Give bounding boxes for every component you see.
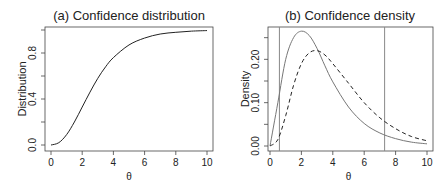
x-axis-label: θ	[346, 171, 352, 182]
y-tick-label: 0.10	[250, 92, 261, 112]
figure: (a) Confidence distribution0246810θ0.00.…	[0, 0, 447, 186]
x-tick-label: 10	[421, 157, 433, 168]
y-tick-label: 0.4	[27, 92, 38, 106]
x-tick-label: 4	[330, 157, 336, 168]
plot-frame	[45, 27, 213, 151]
y-axis-label: Density	[239, 70, 251, 107]
x-tick-label: 8	[393, 157, 399, 168]
panel-density: (b) Confidence density0246810θ0.000.100.…	[239, 8, 433, 182]
dashed-series-line	[270, 51, 427, 146]
x-tick-label: 4	[111, 157, 117, 168]
y-tick-label: 0.8	[27, 46, 38, 60]
chart-title: (a) Confidence distribution	[53, 8, 205, 23]
x-tick-label: 6	[142, 157, 148, 168]
x-tick-label: 10	[201, 157, 213, 168]
y-tick-label: 0.20	[250, 49, 261, 69]
x-tick-label: 2	[79, 157, 85, 168]
x-tick-label: 8	[173, 157, 179, 168]
plot-frame	[268, 27, 433, 151]
chart-title: (b) Confidence density	[285, 8, 416, 23]
panel-distribution: (a) Confidence distribution0246810θ0.00.…	[16, 8, 213, 182]
x-axis-label: θ	[126, 171, 132, 182]
y-tick-label: 0.0	[27, 138, 38, 152]
solid-series-line	[270, 31, 427, 146]
x-tick-label: 0	[48, 157, 54, 168]
y-axis-label: Distribution	[16, 61, 28, 116]
y-tick-label: 0.00	[250, 136, 261, 156]
solid-series-line	[51, 31, 207, 145]
x-tick-label: 2	[299, 157, 305, 168]
x-tick-label: 6	[361, 157, 367, 168]
x-tick-label: 0	[267, 157, 273, 168]
